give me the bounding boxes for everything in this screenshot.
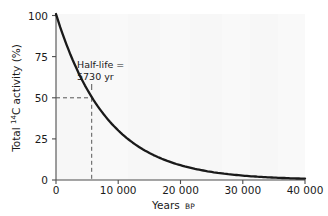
- x-tick-label-10000: 10 000: [100, 184, 137, 196]
- x-tick-label-30000: 30 000: [224, 184, 261, 196]
- y-axis-ticks: [52, 16, 56, 181]
- x-axis-title-main: Years: [151, 199, 180, 211]
- y-axis-title-prefix: Total: [10, 124, 22, 153]
- half-life-annotation-line2: 5730 yr: [77, 71, 114, 82]
- y-axis-title: Total 14C activity (%): [10, 44, 22, 153]
- y-axis-title-suffix: C activity (%): [10, 44, 22, 115]
- y-tick-label-25: 25: [35, 133, 48, 145]
- y-tick-label-50: 50: [35, 92, 48, 104]
- half-life-annotation-line1: Half-life =: [77, 59, 124, 70]
- y-tick-label-100: 100: [28, 10, 48, 22]
- x-axis-title-era: BP: [185, 202, 195, 211]
- chart-canvas: 100 75 50 25 0 0 10 000 20 000 30 000 40…: [0, 0, 328, 216]
- y-tick-label-75: 75: [35, 51, 48, 63]
- x-tick-label-0: 0: [53, 184, 60, 196]
- y-tick-label-0: 0: [41, 174, 48, 186]
- x-axis-title: Years BP: [151, 199, 195, 211]
- x-tick-label-40000: 40 000: [287, 184, 324, 196]
- svg-text:Total 14C activity (%): Total 14C activity (%): [10, 44, 22, 153]
- carbon-14-decay-chart: 100 75 50 25 0 0 10 000 20 000 30 000 40…: [0, 0, 328, 216]
- x-tick-label-20000: 20 000: [162, 184, 199, 196]
